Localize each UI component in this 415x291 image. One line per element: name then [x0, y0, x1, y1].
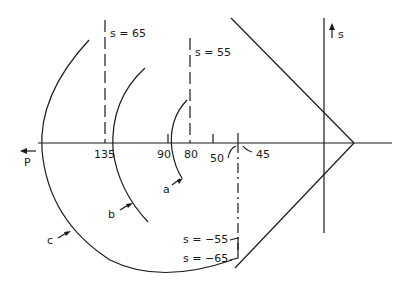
- leader-45: [243, 146, 252, 152]
- tick-label-45: 45: [256, 148, 270, 161]
- s-neg55-label: s = −55: [183, 233, 228, 246]
- s-axis-label: s: [338, 28, 344, 41]
- tick-label-50: 50: [210, 152, 224, 165]
- p-axis-label: P: [24, 156, 31, 169]
- tick-label-80: 80: [184, 148, 198, 161]
- curve-b: [113, 68, 148, 222]
- curve-c-arrowhead-icon: [64, 231, 71, 236]
- tick-label-90: 90: [157, 148, 171, 161]
- diagram-canvas: P s s = 65 s = 55 135 90 80 50 45 a b c …: [0, 0, 415, 291]
- lower-boundary-line: [235, 143, 354, 268]
- tick-label-135: 135: [94, 148, 115, 161]
- s-arrowhead-icon: [329, 23, 335, 30]
- curve-c-label: c: [47, 234, 53, 247]
- curve-b-arrowhead-icon: [126, 203, 133, 208]
- curve-a: [171, 100, 187, 178]
- neg-bracket: [230, 238, 238, 260]
- s55-label: s = 55: [195, 46, 231, 59]
- curve-a-arrowhead-icon: [177, 178, 183, 184]
- leader-50: [228, 146, 236, 158]
- s-neg65-label: s = −65: [183, 252, 228, 265]
- p-arrowhead-icon: [20, 148, 27, 154]
- upper-boundary-line: [231, 18, 354, 143]
- s65-label: s = 65: [110, 27, 146, 40]
- curve-a-label: a: [163, 183, 170, 196]
- curve-b-label: b: [108, 208, 115, 221]
